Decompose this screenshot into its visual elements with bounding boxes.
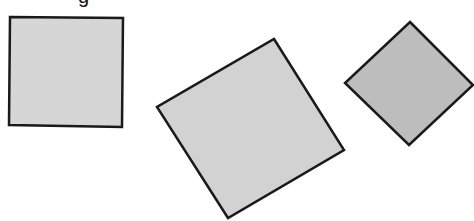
figure-canvas: g [0, 0, 474, 221]
square-upright [9, 17, 123, 127]
square-diamond [345, 22, 473, 145]
caption-fragment: g [78, 0, 89, 7]
square-tilted-large [157, 39, 344, 218]
